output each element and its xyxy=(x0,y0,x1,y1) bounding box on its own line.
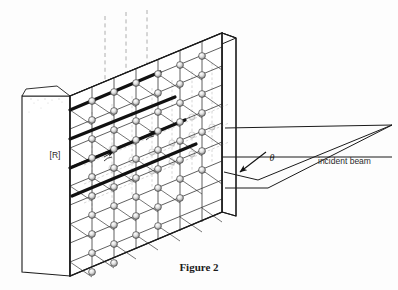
lattice-atom xyxy=(177,138,184,145)
lattice-atom xyxy=(177,119,184,126)
reference-slab-label: [R] xyxy=(50,150,61,160)
crystal-side-face xyxy=(222,33,236,216)
lattice-atom xyxy=(111,184,118,191)
figure-container: [R] xyxy=(0,0,398,290)
lattice-atom xyxy=(89,231,96,238)
lattice-atom xyxy=(89,155,96,162)
lattice-atom xyxy=(89,174,96,181)
lattice-atom xyxy=(155,166,162,173)
lattice-atom xyxy=(133,213,140,220)
lattice-atom xyxy=(177,81,184,88)
lattice-atom xyxy=(111,146,118,153)
lattice-atom xyxy=(199,53,206,60)
lattice-atom xyxy=(155,147,162,154)
lattice-atom xyxy=(133,232,140,239)
lattice-atom xyxy=(111,89,118,96)
incident-beam-label: incident beam xyxy=(318,156,371,166)
lattice-atom xyxy=(89,193,96,200)
lattice-atom xyxy=(111,203,118,210)
lattice-atom xyxy=(155,223,162,230)
lattice-atom xyxy=(155,71,162,78)
lattice-atom xyxy=(133,118,140,125)
lattice-atom xyxy=(177,62,184,69)
lattice-atom xyxy=(133,80,140,87)
lattice-atom xyxy=(177,100,184,107)
lattice-atom xyxy=(89,212,96,219)
lattice-atom xyxy=(177,176,184,183)
lattice-atom xyxy=(155,90,162,97)
lattice-atom xyxy=(155,204,162,211)
lattice-atom xyxy=(177,157,184,164)
lattice-atom xyxy=(155,128,162,135)
lattice-atom xyxy=(199,167,206,174)
lattice-atom xyxy=(133,137,140,144)
reference-slab-face xyxy=(22,96,70,276)
lattice-atom xyxy=(199,91,206,98)
lattice-atom xyxy=(89,117,96,124)
lattice-atom xyxy=(111,260,118,267)
lattice-atom xyxy=(199,72,206,79)
lattice-atom xyxy=(111,127,118,134)
lattice-atom xyxy=(155,185,162,192)
reference-slab: [R] xyxy=(22,86,70,276)
lattice-atom xyxy=(89,136,96,143)
lattice-atom xyxy=(111,241,118,248)
lattice-atom xyxy=(89,98,96,105)
lattice-atom xyxy=(177,195,184,202)
lattice-atom xyxy=(133,194,140,201)
lattice-atom xyxy=(111,165,118,172)
lattice-atom xyxy=(199,129,206,136)
figure-caption: Figure 2 xyxy=(179,261,219,273)
lattice-atom xyxy=(133,175,140,182)
lattice-atom xyxy=(199,148,206,155)
lattice-atom xyxy=(111,108,118,115)
lattice-atom xyxy=(133,99,140,106)
lattice-atom xyxy=(89,269,96,276)
lattice-atom xyxy=(199,110,206,117)
lattice-atom xyxy=(133,156,140,163)
lattice-atom xyxy=(89,250,96,257)
lattice-atom xyxy=(155,109,162,116)
lattice-atom xyxy=(111,222,118,229)
diffraction-figure: [R] xyxy=(0,0,398,290)
theta-label: θ xyxy=(270,152,275,163)
